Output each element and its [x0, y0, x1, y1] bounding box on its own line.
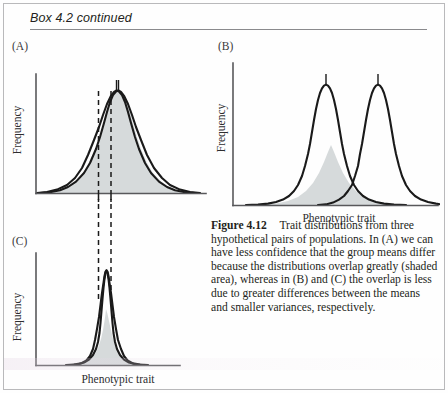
figure-caption-text: Trait distributions from three hypotheti…	[211, 219, 437, 314]
panel-a-ylabel: Frequency	[11, 105, 24, 154]
box-figure-page: Box 4.2 continued (A) (B) (C) Frequency …	[0, 0, 448, 393]
box-header: Box 4.2 continued	[30, 8, 430, 34]
header-divider	[30, 29, 427, 30]
figure-caption: Figure 4.12 Trait distributions from thr…	[211, 219, 439, 314]
panel-a-chart: Frequency	[10, 50, 210, 205]
panel-b-ylabel: Frequency	[215, 103, 228, 152]
box-header-label: Box 4.2 continued	[30, 11, 132, 25]
panel-c-xlabel: Phenotypic trait	[81, 373, 155, 386]
panel-c-ylabel: Frequency	[11, 292, 24, 341]
figure-caption-number: Figure 4.12	[211, 219, 267, 232]
panel-c-overlap-shade	[72, 309, 142, 365]
panel-c-chart: Frequency Phenotypic trait	[10, 245, 210, 390]
panel-b-overlap-shade	[250, 145, 412, 205]
panel-b-chart: Frequency Phenotypic trait	[214, 50, 440, 225]
panel-a-overlap-shade	[40, 90, 197, 193]
